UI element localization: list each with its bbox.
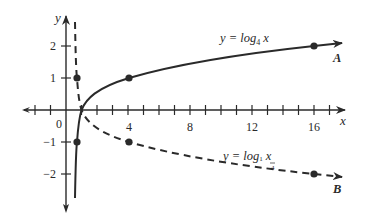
x-tick-label-8: 8	[187, 120, 193, 134]
curve-b-line	[75, 22, 342, 177]
curve-b-equation: y = log1x	[221, 149, 272, 163]
y-tick-label-2: 2	[50, 39, 56, 53]
curve-a-point-quarter	[73, 138, 80, 145]
curve-b-eq-base-den: 4	[271, 164, 275, 172]
y-axis: 2 1 −1 −2 y	[43, 10, 71, 213]
x-tick-label-16: 16	[308, 120, 320, 134]
curve-a-eq-var: x	[262, 31, 269, 45]
y-tick-label-neg2: −2	[43, 167, 56, 181]
x-tick-label-12: 12	[246, 120, 258, 134]
curve-a-name: A	[332, 51, 341, 65]
curve-a-eq-prefix: y = log	[218, 31, 256, 45]
curve-b-name: B	[332, 182, 341, 196]
x-axis: 4 8 12 16 0 x	[22, 105, 346, 134]
curve-a-point-4	[125, 74, 132, 81]
curve-b-point-quarter	[73, 74, 80, 81]
y-tick-label-neg1: −1	[43, 135, 56, 149]
y-tick-label-1: 1	[50, 71, 56, 85]
curve-b-eq-base-num: 1	[259, 155, 263, 163]
chart-canvas: 4 8 12 16 0 x 2 1 −1 −2 y y = log4x A	[0, 0, 365, 217]
origin-label: 0	[56, 117, 62, 131]
y-axis-label: y	[53, 10, 61, 25]
curve-a-eq-base: 4	[256, 38, 260, 47]
curve-a-equation: y = log4x	[218, 31, 269, 47]
curve-b-point-16	[310, 170, 317, 177]
curve-a-line	[75, 43, 342, 198]
curve-b-point-4	[125, 138, 132, 145]
log-graph-figure: 4 8 12 16 0 x 2 1 −1 −2 y y = log4x A	[0, 0, 365, 217]
x-axis-label: x	[339, 113, 346, 128]
curve-b-eq-prefix: y = log	[221, 149, 259, 163]
curve-a-log4: y = log4x A	[73, 31, 342, 198]
curve-b-eq-var: x	[265, 149, 272, 163]
curve-a-point-16	[310, 42, 317, 49]
x-tick-label-4: 4	[126, 120, 132, 134]
